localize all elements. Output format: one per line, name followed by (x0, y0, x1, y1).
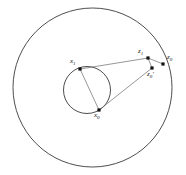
label-z1: z1 (138, 48, 143, 55)
point-marker-z0 (161, 62, 164, 65)
label-x1: x1 (70, 58, 76, 65)
label-z0: z0 (167, 54, 172, 61)
segment-x1-to-x0 (80, 69, 99, 110)
label-x0: x0 (94, 112, 100, 119)
outer-circle (13, 8, 172, 167)
point-marker-x1 (78, 67, 81, 70)
point-marker-z1 (146, 56, 149, 59)
figure-canvas (0, 0, 186, 175)
segment-x1-to-z1 (80, 58, 148, 69)
label-z0-prime: z0' (147, 71, 154, 78)
segment-x0-to-z0prime (99, 68, 152, 110)
geometry-figure: x1 z1 z0 z0' x0 (0, 0, 186, 175)
